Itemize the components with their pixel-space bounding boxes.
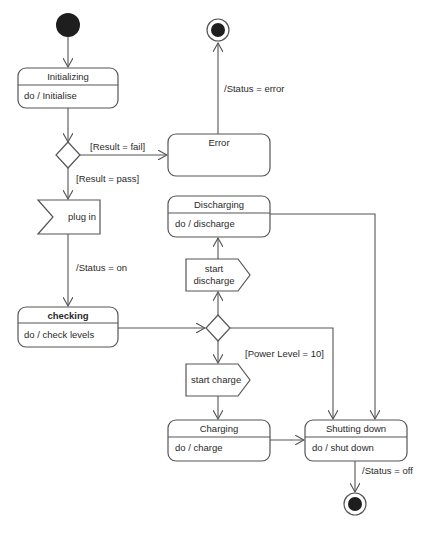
state-activity: do / check levels <box>24 329 94 340</box>
effect-status-on: /Status = on <box>76 262 127 273</box>
state-charging: Charging do / charge <box>168 420 270 461</box>
state-diagram: Initializing do / Initialise [Result = f… <box>0 0 429 533</box>
initial-node <box>56 13 80 37</box>
effect-status-error: /Status = error <box>224 83 284 94</box>
guard-power-level: [Power Level = 10] <box>245 348 324 359</box>
signal-start-discharge: start discharge <box>186 259 250 291</box>
final-node-off <box>344 493 366 515</box>
state-name: Error <box>208 137 229 148</box>
state-activity: do / charge <box>175 442 223 453</box>
decision-node-power <box>206 315 230 341</box>
decision-node-result <box>56 142 80 168</box>
signal-start-charge: start charge <box>186 364 250 396</box>
guard-result-pass: [Result = pass] <box>76 173 139 184</box>
signal-label: start charge <box>191 374 241 385</box>
state-name: Shutting down <box>326 423 386 434</box>
state-checking: checking do / check levels <box>18 307 118 347</box>
guard-result-fail: [Result = fail] <box>90 141 145 152</box>
signal-plug-in: plug in <box>38 200 100 234</box>
effect-status-off: /Status = off <box>362 465 413 476</box>
state-shutting-down: Shutting down do / shut down <box>305 420 407 461</box>
state-activity: do / discharge <box>175 218 235 229</box>
signal-label-1: start <box>205 263 224 274</box>
signal-label: plug in <box>68 211 96 222</box>
state-name: Discharging <box>194 199 244 210</box>
final-node-error <box>207 19 229 41</box>
signal-label-2: discharge <box>193 275 234 286</box>
state-activity: do / shut down <box>312 442 374 453</box>
state-name: Initializing <box>47 71 89 82</box>
state-name: checking <box>47 310 88 321</box>
state-activity: do / Initialise <box>24 90 77 101</box>
state-name: Charging <box>200 423 239 434</box>
state-initializing: Initializing do / Initialise <box>18 68 118 108</box>
state-error: Error <box>168 134 270 176</box>
state-discharging: Discharging do / discharge <box>168 196 270 237</box>
